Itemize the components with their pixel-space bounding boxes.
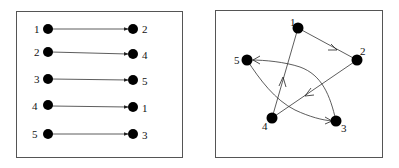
graph-label-3: 3 — [341, 122, 347, 134]
left-from-label: 3 — [34, 73, 40, 85]
left-to-label: 1 — [142, 102, 148, 114]
left-to-label: 2 — [142, 23, 148, 35]
left-from-label: 5 — [32, 128, 38, 140]
mapping-arrow — [51, 106, 128, 107]
graph-label-4: 4 — [262, 120, 268, 132]
right-node — [128, 24, 138, 34]
left-node — [43, 74, 53, 84]
right-node — [128, 75, 138, 85]
edge-1-to-2 — [298, 28, 357, 60]
left-node — [43, 24, 53, 34]
left-panel-frame — [17, 12, 183, 158]
right-node — [128, 102, 138, 112]
right-panel-edges — [247, 28, 357, 124]
diagram-canvas: 1 2 3 4 5 2 4 5 1 3 1 2 3 4 5 — [0, 0, 399, 168]
edge-3-to-5 — [251, 60, 336, 121]
left-to-label: 3 — [142, 129, 148, 141]
mapping-arrow — [51, 52, 128, 54]
edge-2-to-4 — [272, 60, 357, 118]
edge-4-to-1 — [272, 28, 298, 118]
left-from-label: 1 — [34, 23, 40, 35]
left-node — [43, 100, 53, 110]
left-to-label: 4 — [142, 49, 148, 61]
graph-node-5 — [242, 55, 253, 66]
graph-label-2: 2 — [360, 45, 366, 57]
right-panel-nodes — [242, 23, 363, 127]
graph-label-5: 5 — [234, 54, 240, 66]
right-node — [128, 129, 138, 139]
edge-5-to-3 — [247, 60, 332, 121]
graph-label-1: 1 — [290, 16, 296, 28]
graph-node-3 — [331, 116, 342, 127]
left-node — [43, 129, 53, 139]
left-from-label: 2 — [34, 46, 40, 58]
right-node — [128, 49, 138, 59]
left-to-label: 5 — [142, 75, 148, 87]
mapping-arrow — [51, 79, 128, 80]
left-node — [43, 47, 53, 57]
left-from-label: 4 — [32, 100, 38, 112]
left-panel-mappings — [51, 29, 128, 134]
graph-node-4 — [267, 113, 278, 124]
left-panel-nodes — [43, 24, 138, 139]
